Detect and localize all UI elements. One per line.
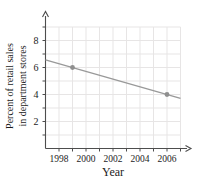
y-tick-label: 6 bbox=[34, 62, 39, 73]
y-axis-title: Percent of retail sales in department st… bbox=[3, 24, 33, 148]
x-tick-label: 1998 bbox=[50, 154, 69, 164]
y-axis-title-line1: Percent of retail sales bbox=[3, 24, 16, 148]
x-tick-label: 2006 bbox=[158, 154, 177, 164]
data-point bbox=[70, 65, 75, 70]
x-tick-label: 2004 bbox=[131, 154, 150, 164]
data-point bbox=[165, 92, 170, 97]
y-tick-label: 2 bbox=[34, 116, 39, 127]
y-tick-label: 4 bbox=[34, 89, 39, 100]
x-tick-label: 2002 bbox=[104, 154, 123, 164]
y-axis-title-line2: in department stores bbox=[16, 24, 29, 148]
chart-figure: 199820002002200420062468 Percent of reta… bbox=[0, 0, 202, 193]
y-tick-label: 8 bbox=[34, 35, 39, 46]
x-tick-label: 2000 bbox=[77, 154, 96, 164]
x-axis-title: Year bbox=[45, 165, 181, 181]
